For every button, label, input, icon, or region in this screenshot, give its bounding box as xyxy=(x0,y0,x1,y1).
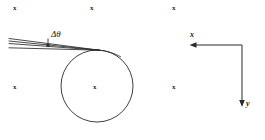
placeholder-mark-2: x xyxy=(90,5,94,12)
x-axis-label: x xyxy=(190,31,194,39)
ray-bundle xyxy=(9,39,100,51)
placeholder-mark-5: x xyxy=(93,84,97,91)
x-axis-arrowhead-icon xyxy=(190,42,197,48)
y-axis-arrowhead-icon xyxy=(239,100,245,107)
tangent-continuation xyxy=(100,50,122,57)
placeholder-mark-1: x xyxy=(13,5,17,12)
placeholder-mark-4: x xyxy=(13,84,17,91)
figure-canvas: Δθ x y x x x x x x xyxy=(0,0,265,140)
delta-theta-label: Δθ xyxy=(51,30,61,39)
y-axis-label: y xyxy=(246,100,250,108)
coordinate-axes xyxy=(192,45,242,103)
diagram-svg xyxy=(0,0,265,140)
placeholder-mark-3: x xyxy=(172,5,176,12)
placeholder-mark-6: x xyxy=(172,84,176,91)
tangent-circle xyxy=(61,50,133,122)
